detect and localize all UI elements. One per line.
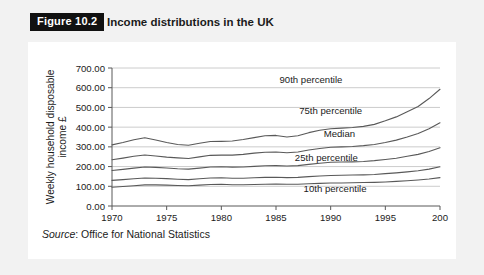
series-line: [112, 167, 440, 181]
x-tick-label: 1990: [320, 212, 341, 222]
figure-header: Figure 10.2 Income distributions in the …: [0, 0, 484, 42]
y-tick-label: 0.00: [86, 201, 105, 212]
series-annotation: 10th percentile: [304, 183, 367, 194]
chart-canvas: 197019751980198519901995200 0.00100.0020…: [28, 42, 456, 222]
line-chart: 197019751980198519901995200 0.00100.0020…: [28, 42, 456, 222]
figure-title: Income distributions in the UK: [107, 16, 274, 28]
y-tick-label: 200.00: [76, 161, 105, 172]
x-tick-label: 1970: [101, 212, 122, 222]
x-tick-label: 200: [432, 212, 448, 222]
x-tick-label: 1975: [156, 212, 177, 222]
figure-screenshot: Figure 10.2 Income distributions in the …: [0, 0, 484, 275]
series-line: [112, 148, 440, 171]
chart-gridlines: [112, 68, 440, 186]
x-tick-label: 1980: [211, 212, 232, 222]
chart-y-axis-title: Weekly household disposableincome £: [45, 69, 68, 204]
y-axis-title-line: income £: [57, 116, 68, 158]
chart-y-ticks: 0.00100.00200.00300.00400.00500.00600.00…: [76, 63, 112, 212]
y-tick-label: 700.00: [76, 63, 105, 74]
figure-number-badge: Figure 10.2: [30, 13, 104, 31]
y-axis-title-line: Weekly household disposable: [45, 69, 56, 204]
chart-x-ticks: 197019751980198519901995200: [101, 206, 448, 222]
series-annotation: 90th percentile: [280, 74, 343, 85]
series-annotation: 75th percentile: [299, 105, 362, 116]
chart-series-lines: [112, 89, 440, 187]
y-tick-label: 400.00: [76, 122, 105, 133]
figure-panel: 197019751980198519901995200 0.00100.0020…: [28, 42, 456, 259]
series-annotation: 25th percentile: [295, 152, 358, 163]
y-tick-label: 500.00: [76, 102, 105, 113]
source-note: Source: Office for National Statistics: [42, 228, 210, 240]
y-tick-label: 100.00: [76, 181, 105, 192]
series-annotation: Median: [324, 128, 355, 139]
source-text: : Office for National Statistics: [75, 228, 210, 240]
source-label: Source: [42, 228, 75, 240]
y-tick-label: 600.00: [76, 82, 105, 93]
x-tick-label: 1995: [375, 212, 396, 222]
series-line: [112, 89, 440, 145]
y-tick-label: 300.00: [76, 141, 105, 152]
x-tick-label: 1985: [265, 212, 286, 222]
